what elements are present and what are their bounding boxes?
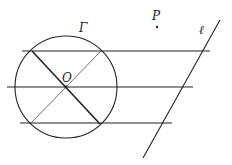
label-p: P — [151, 9, 161, 23]
line-l — [143, 20, 220, 158]
label-l: ℓ — [199, 23, 204, 37]
label-o: O — [62, 71, 72, 85]
center-point-o — [65, 86, 68, 89]
geometry-diagram: Γ O P ℓ — [0, 0, 232, 165]
label-gamma: Γ — [78, 21, 88, 35]
point-p — [156, 26, 158, 28]
